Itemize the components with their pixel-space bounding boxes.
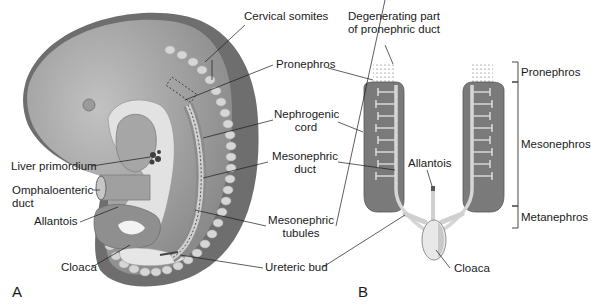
label-omphaloenteric-duct-line1: Omphaloenteric [12,184,93,197]
label-omphaloenteric-duct: Omphaloenteric duct [12,184,93,210]
label-allantois-b: Allantois [408,157,451,170]
label-mesonephric-duct: Mesonephric duct [270,150,340,176]
panel-label-b: B [358,283,368,300]
label-cervical-somites: Cervical somites [244,10,328,23]
embryo-illustration [23,13,259,287]
label-ureteric-bud: Ureteric bud [265,261,328,274]
label-degenerating-line2: of pronephric duct [346,23,442,36]
label-allantois-a: Allantois [34,215,77,228]
bracket-label-mesonephros: Mesonephros [521,138,591,151]
label-mesonephric-tubules: Mesonephric tubules [266,214,336,240]
label-liver-primordium: Liver primordium [11,160,97,173]
label-degenerating-line1: Degenerating part [346,10,442,23]
panel-label-a: A [12,283,22,300]
label-pronephros: Pronephros [276,58,335,71]
label-cloaca-a: Cloaca [61,261,97,274]
bracket-label-metanephros: Metanephros [521,211,588,224]
label-nephrogenic-cord-line1: Nephrogenic [274,108,338,121]
label-nephrogenic-cord-line2: cord [274,121,338,134]
bracket-label-pronephros: Pronephros [521,66,580,79]
label-mesonephric-tubules-line2: tubules [266,227,336,240]
label-mesonephric-tubules-line1: Mesonephric [266,214,336,227]
label-degenerating-pronephric-duct: Degenerating part of pronephric duct [346,10,442,36]
label-nephrogenic-cord: Nephrogenic cord [274,108,338,134]
label-cloaca-b: Cloaca [454,262,490,275]
label-mesonephric-duct-line2: duct [270,163,340,176]
label-omphaloenteric-duct-line2: duct [12,197,93,210]
label-mesonephric-duct-line1: Mesonephric [270,150,340,163]
